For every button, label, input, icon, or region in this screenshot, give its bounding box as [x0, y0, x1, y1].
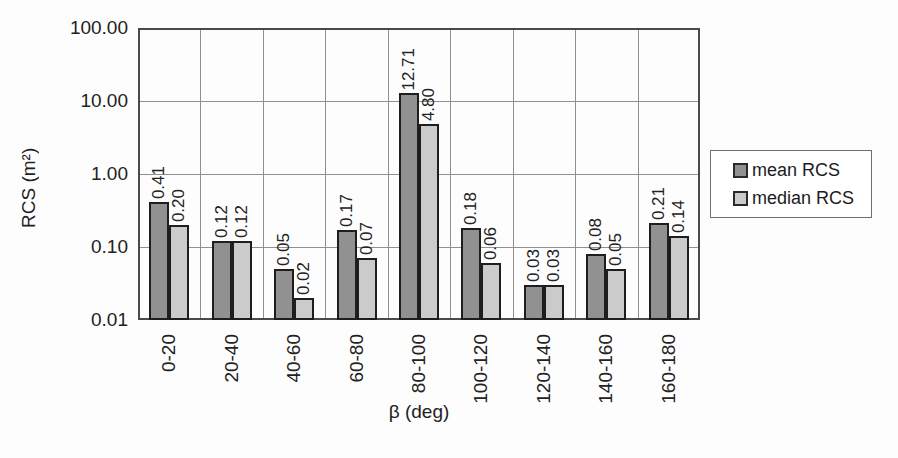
bar-value-label: 0.20: [168, 189, 190, 222]
bar-value-label: 0.18: [460, 192, 482, 225]
y-tick-label: 10.00: [22, 89, 128, 113]
legend-item-median-rcs: median RCS: [733, 189, 871, 207]
bar-value-label: 0.14: [668, 200, 690, 233]
mean-bar: [399, 93, 419, 320]
legend-label-mean-rcs: mean RCS: [752, 161, 840, 179]
mean-rcs-swatch-icon: [733, 163, 748, 178]
median-bar: [357, 258, 377, 320]
bar-value-label: 0.12: [231, 205, 253, 238]
median-bar: [544, 285, 564, 320]
bar-value-label: 0.12: [211, 205, 233, 238]
mean-bar: [274, 269, 294, 320]
legend-label-median-rcs: median RCS: [752, 189, 854, 207]
x-tick-label: 0-20: [158, 334, 180, 372]
mean-bar: [586, 254, 606, 320]
median-bar: [669, 236, 689, 320]
legend: mean RCS median RCS: [710, 150, 872, 218]
rcs-bar-chart-figure: RCS (m²) 100.0010.001.000.100.010.410.20…: [0, 0, 898, 458]
x-tick-label: 80-100: [408, 334, 430, 393]
mean-bar: [649, 223, 669, 320]
median-bar: [232, 241, 252, 320]
mean-bar: [149, 202, 169, 320]
x-tick-label: 100-120: [470, 334, 492, 404]
x-tick-label: 160-180: [658, 334, 680, 404]
median-rcs-swatch-icon: [733, 191, 748, 206]
mean-bar: [461, 228, 481, 320]
bar-value-label: 0.17: [336, 194, 358, 227]
mean-bar: [212, 241, 232, 320]
bar-value-label: 0.06: [480, 227, 502, 260]
bar-value-label: 0.03: [523, 249, 545, 282]
mean-bar: [337, 230, 357, 320]
mean-bar: [524, 285, 544, 320]
plot-area: 100.0010.001.000.100.010.410.200-200.120…: [0, 0, 898, 458]
bar-value-label: 12.71: [398, 48, 420, 91]
x-tick-label: 40-60: [283, 334, 305, 383]
bar-value-label: 0.05: [273, 233, 295, 266]
bar-value-label: 0.21: [648, 187, 670, 220]
y-tick-label: 0.01: [22, 308, 128, 332]
legend-item-mean-rcs: mean RCS: [733, 161, 871, 179]
x-tick-label: 60-80: [346, 334, 368, 383]
x-tick-label: 140-160: [595, 334, 617, 404]
y-tick-label: 1.00: [22, 162, 128, 186]
median-bar: [481, 263, 501, 320]
x-tick-label: 120-140: [533, 334, 555, 404]
median-bar: [606, 269, 626, 320]
median-bar: [169, 225, 189, 320]
bar-value-label: 0.07: [356, 222, 378, 255]
x-tick-label: 20-40: [221, 334, 243, 383]
bar-value-label: 4.80: [418, 88, 440, 121]
bar-value-label: 0.41: [148, 166, 170, 199]
bar-value-label: 0.03: [543, 249, 565, 282]
y-tick-label: 100.00: [22, 16, 128, 40]
bar-value-label: 0.02: [293, 262, 315, 295]
x-axis-title: β (deg): [138, 401, 700, 423]
median-bar: [419, 124, 439, 320]
y-tick-label: 0.10: [22, 235, 128, 259]
median-bar: [294, 298, 314, 320]
bar-value-label: 0.05: [605, 233, 627, 266]
